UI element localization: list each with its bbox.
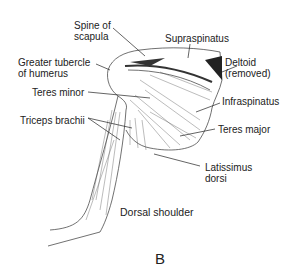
- label-spine-of-scapula: Spine of scapula: [74, 20, 111, 42]
- label-teres-major: Teres major: [218, 124, 270, 135]
- label-latissimus-dorsi: Latissimus dorsi: [205, 162, 252, 184]
- label-greater-tubercle: Greater tubercle of humerus: [18, 57, 90, 79]
- scapular-spine: [125, 66, 212, 82]
- humerus-head-outline: [107, 70, 126, 110]
- panel-letter: B: [155, 250, 165, 267]
- label-supraspinatus: Supraspinatus: [165, 33, 229, 44]
- shoulder-illustration: [0, 0, 296, 276]
- label-infraspinatus: Infraspinatus: [222, 96, 279, 107]
- figure-caption: Dorsal shoulder: [120, 206, 194, 218]
- label-teres-minor: Teres minor: [32, 87, 84, 98]
- scapula-outline: [108, 48, 222, 150]
- label-deltoid-removed: Deltoid (removed): [225, 57, 271, 79]
- label-triceps-brachii: Triceps brachii: [20, 115, 85, 126]
